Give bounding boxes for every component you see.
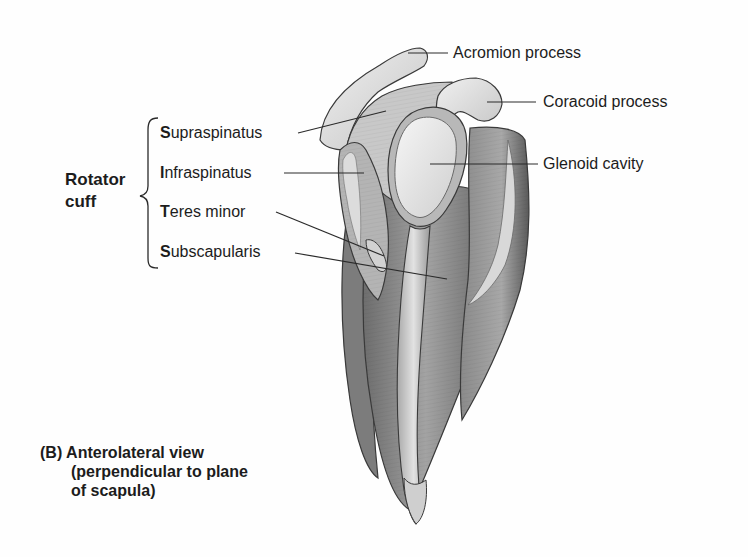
caption-line-1: (B) Anterolateral view xyxy=(40,443,248,462)
label-subscapularis: Subscapularis xyxy=(160,243,261,261)
view-caption: (B) Anterolateral view (perpendicular to… xyxy=(40,443,248,500)
inferior-angle xyxy=(404,478,427,524)
label-glenoid-cavity: Glenoid cavity xyxy=(543,155,644,173)
label-rest: ubscapularis xyxy=(171,243,261,260)
label-rest: nfraspinatus xyxy=(164,164,251,181)
rotator-cuff-title-line1: Rotator xyxy=(65,169,125,191)
rotator-cuff-brace xyxy=(140,118,158,268)
label-rest: eres minor xyxy=(170,203,246,220)
label-infraspinatus: Infraspinatus xyxy=(160,164,252,182)
caption-letter: (B) xyxy=(40,444,62,461)
label-rest: upraspinatus xyxy=(171,124,263,141)
rotator-cuff-figure: Rotator cuff Supraspinatus Infraspinatus… xyxy=(0,0,748,557)
label-initial: S xyxy=(160,243,171,260)
rotator-cuff-title-line2: cuff xyxy=(65,191,125,213)
label-initial: S xyxy=(160,124,171,141)
label-supraspinatus: Supraspinatus xyxy=(160,124,262,142)
label-coracoid-process: Coracoid process xyxy=(543,93,668,111)
label-teres-minor: Teres minor xyxy=(160,203,245,221)
label-initial: T xyxy=(160,203,170,220)
caption-line-3: of scapula) xyxy=(40,481,248,500)
label-acromion-process: Acromion process xyxy=(453,44,581,62)
caption-line-2: (perpendicular to plane xyxy=(40,462,248,481)
rotator-cuff-title: Rotator cuff xyxy=(65,169,125,213)
caption-title: Anterolateral view xyxy=(66,444,204,461)
